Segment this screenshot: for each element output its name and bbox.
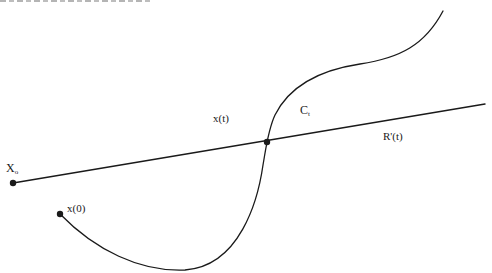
label-curve-sub: t (308, 110, 310, 118)
label-x-t: x(t) (213, 113, 229, 124)
label-x-origin-sub: o (15, 168, 19, 176)
diagram-canvas (0, 0, 492, 273)
ray-r-prime-t (13, 104, 485, 183)
label-x-origin: Xo (6, 162, 18, 176)
label-curve-main: C (300, 103, 308, 117)
label-x-zero: x(0) (67, 203, 85, 214)
point-x-origin (10, 180, 16, 186)
point-intersection (264, 139, 270, 145)
label-ray-r-prime-t: R'(t) (383, 131, 403, 142)
label-curve-c-t: Ct (300, 104, 310, 118)
label-x-origin-main: X (6, 161, 15, 175)
point-x-zero (57, 211, 63, 217)
